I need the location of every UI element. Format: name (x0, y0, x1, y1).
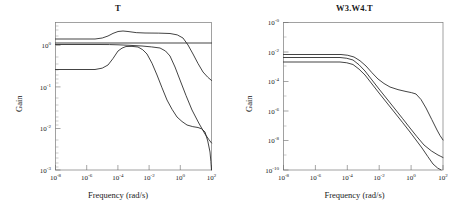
x-tick-labels-right: 10-8 10-6 10-4 10-2 100 102 (278, 173, 448, 182)
svg-text:10-6: 10-6 (268, 107, 280, 116)
svg-text:10-6: 10-6 (310, 173, 322, 182)
svg-text:102: 102 (207, 173, 217, 182)
panel-left-axes: 10-8 10-6 10-4 10-2 100 102 100 10-1 10-… (0, 0, 236, 209)
svg-text:10-2: 10-2 (40, 124, 52, 133)
y-axis-ticks-left (56, 26, 61, 170)
x-axis-ticks-right (284, 165, 444, 170)
curve-left-3 (56, 46, 212, 170)
x-tick-labels-left: 10-8 10-6 10-4 10-2 100 102 (50, 173, 217, 182)
panel-right-xlabel: Frequency (rad/s) (236, 190, 473, 200)
svg-text:10-2: 10-2 (144, 173, 156, 182)
curve-right-2 (284, 58, 444, 158)
y-axis-ticks-right (284, 23, 289, 171)
svg-text:102: 102 (438, 173, 448, 182)
panel-right-ylabel: Gain (244, 95, 254, 112)
svg-text:10-8: 10-8 (50, 173, 62, 182)
svg-text:10-4: 10-4 (268, 77, 280, 86)
svg-text:10-4: 10-4 (342, 173, 354, 182)
panel-left-xlabel: Frequency (rad/s) (0, 190, 236, 200)
curve-left-1 (56, 31, 212, 81)
figure-root: T (0, 0, 473, 209)
svg-text:10-2: 10-2 (374, 173, 386, 182)
y-tick-labels-right: 10-0 10-2 10-4 10-6 10-8 10-10 (265, 18, 279, 175)
svg-text:10-6: 10-6 (81, 173, 93, 182)
svg-text:10-0: 10-0 (268, 18, 280, 27)
curve-left-2 (56, 45, 212, 144)
svg-text:10-8: 10-8 (268, 136, 280, 145)
panel-right-axes: 10-8 10-6 10-4 10-2 100 102 10-0 10-2 10… (236, 0, 473, 209)
curve-right-1 (284, 55, 444, 141)
x-axis-ticks-left (56, 165, 212, 170)
y-tick-labels-left: 100 10-1 10-2 10-3 (40, 41, 52, 175)
svg-text:10-8: 10-8 (278, 173, 290, 182)
chart-panel-right: W3.W4.T (236, 0, 473, 209)
svg-text:10-2: 10-2 (268, 48, 280, 57)
svg-text:10-1: 10-1 (40, 83, 52, 92)
svg-text:100: 100 (42, 41, 52, 50)
curve-right-3 (284, 62, 442, 170)
svg-text:100: 100 (406, 173, 416, 182)
chart-panel-left: T (0, 0, 236, 209)
panel-left-ylabel: Gain (14, 95, 24, 112)
svg-text:100: 100 (176, 173, 186, 182)
svg-text:10-4: 10-4 (112, 173, 124, 182)
plot-frame-right (284, 23, 444, 171)
